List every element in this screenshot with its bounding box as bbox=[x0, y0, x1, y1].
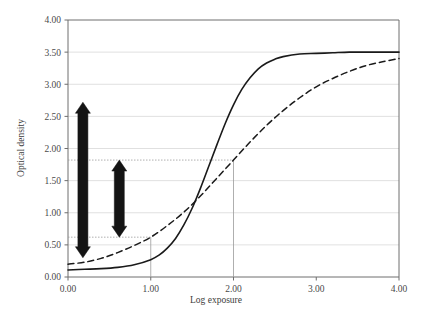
y-tick-label: 3.00 bbox=[44, 80, 61, 90]
x-axis-title: Log exposure bbox=[190, 295, 242, 305]
chart-background bbox=[0, 0, 433, 314]
x-tick-label: 3.00 bbox=[308, 284, 325, 294]
y-tick-label: 2.50 bbox=[44, 112, 61, 122]
y-tick-label: 4.00 bbox=[44, 15, 61, 25]
density-range-solid-arrow bbox=[75, 102, 90, 257]
y-tick-label: 0.50 bbox=[44, 240, 61, 250]
characteristic-curve-chart: 0.000.501.001.502.002.503.003.504.000.00… bbox=[0, 0, 433, 314]
y-tick-label: 0.00 bbox=[44, 272, 61, 282]
y-tick-label: 3.50 bbox=[44, 48, 61, 58]
y-tick-label: 1.00 bbox=[44, 208, 61, 218]
density-range-dashed-arrow bbox=[112, 160, 127, 237]
y-tick-label: 1.50 bbox=[44, 176, 61, 186]
x-tick-label: 0.00 bbox=[60, 284, 77, 294]
y-axis-title: Optical density bbox=[16, 119, 26, 177]
chart-canvas: 0.000.501.001.502.002.503.003.504.000.00… bbox=[0, 0, 433, 314]
x-tick-label: 4.00 bbox=[391, 284, 408, 294]
x-tick-label: 2.00 bbox=[225, 284, 242, 294]
y-tick-label: 2.00 bbox=[44, 144, 61, 154]
x-tick-label: 1.00 bbox=[142, 284, 159, 294]
